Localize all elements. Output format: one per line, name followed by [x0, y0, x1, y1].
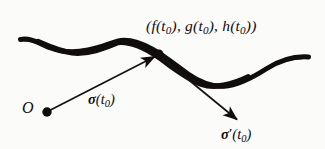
- sigma-prime-symbol: σ: [221, 126, 229, 142]
- h-symbol: h: [222, 17, 230, 34]
- curve-point-dot: [155, 50, 164, 59]
- sigma-symbol: σ: [88, 91, 96, 107]
- point-coordinates-label: (f(t0), g(t0), h(t0)): [146, 18, 257, 36]
- curve-tangent-figure: (f(t0), g(t0), h(t0)) O σ(t0) σ′(t0): [0, 0, 325, 149]
- g-symbol: g: [185, 17, 193, 34]
- parametrized-curve: [21, 39, 309, 86]
- origin-label: O: [22, 100, 34, 116]
- tangent-vector-arrow: [162, 58, 237, 120]
- position-vector-label: σ(t0): [88, 92, 115, 109]
- origin-dot: [42, 107, 51, 116]
- tangent-vector-label: σ′(t0): [221, 127, 251, 145]
